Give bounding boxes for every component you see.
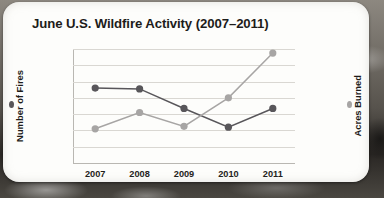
data-point-acres-burned-2008 bbox=[136, 109, 143, 116]
data-point-acres-burned-2011 bbox=[269, 49, 276, 56]
left-axis-title: Number of Fires bbox=[9, 49, 25, 163]
chart-card: June U.S. Wildfire Activity (2007–2011) … bbox=[3, 2, 369, 182]
data-point-number-of-fires-2011 bbox=[269, 105, 276, 112]
right-axis-label: Acres Burned bbox=[352, 75, 363, 136]
data-point-acres-burned-2010 bbox=[225, 94, 232, 101]
data-point-number-of-fires-2009 bbox=[180, 105, 187, 112]
data-point-number-of-fires-2008 bbox=[136, 85, 143, 92]
data-point-number-of-fires-2007 bbox=[92, 84, 99, 91]
x-tick-label-2009: 2009 bbox=[174, 169, 194, 179]
x-tick-label-2007: 2007 bbox=[85, 169, 105, 179]
plot-area: 02,0004,0006,0008,00010,00012,00014,000 … bbox=[73, 49, 295, 163]
chart-title: June U.S. Wildfire Activity (2007–2011) bbox=[32, 16, 269, 31]
right-axis-title: Acres Burned bbox=[347, 49, 363, 163]
series-lines bbox=[73, 49, 295, 163]
x-tick-label-2010: 2010 bbox=[218, 169, 238, 179]
x-tick-label-2011: 2011 bbox=[263, 169, 283, 179]
data-point-acres-burned-2007 bbox=[92, 125, 99, 132]
left-axis-label: Number of Fires bbox=[14, 70, 25, 142]
data-point-acres-burned-2009 bbox=[180, 123, 187, 130]
data-point-number-of-fires-2010 bbox=[225, 124, 232, 131]
x-tick-label-2008: 2008 bbox=[129, 169, 149, 179]
gridline bbox=[73, 163, 295, 164]
line-acres-burned bbox=[95, 53, 273, 129]
